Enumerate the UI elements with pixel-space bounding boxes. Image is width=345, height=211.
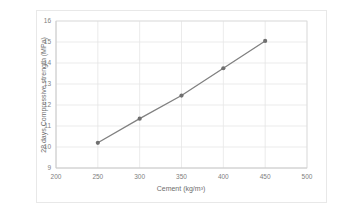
x-tick-label: 350 — [176, 173, 187, 180]
y-axis-title: 28 days Compressive strength (MPa) — [40, 37, 48, 153]
data-point-marker — [179, 93, 183, 97]
data-point-marker — [96, 141, 100, 145]
data-point-marker — [263, 39, 267, 43]
x-axis-title: Cement (kg/m³) — [157, 185, 206, 193]
x-tick-label: 450 — [260, 173, 271, 180]
data-point-marker — [221, 66, 225, 70]
chart-figure: 910111213141516 200250300350400450500 28… — [0, 0, 345, 211]
x-tick-label: 400 — [218, 173, 229, 180]
y-tick-label: 16 — [44, 17, 52, 24]
x-axis-tick-labels: 200250300350400450500 — [51, 173, 313, 180]
data-point-marker — [138, 117, 142, 121]
x-tick-label: 250 — [92, 173, 103, 180]
y-tick-label: 9 — [47, 164, 51, 171]
x-tick-label: 500 — [302, 173, 313, 180]
chart-canvas: 910111213141516 200250300350400450500 28… — [0, 0, 345, 211]
x-tick-label: 200 — [51, 173, 62, 180]
x-tick-label: 300 — [134, 173, 145, 180]
